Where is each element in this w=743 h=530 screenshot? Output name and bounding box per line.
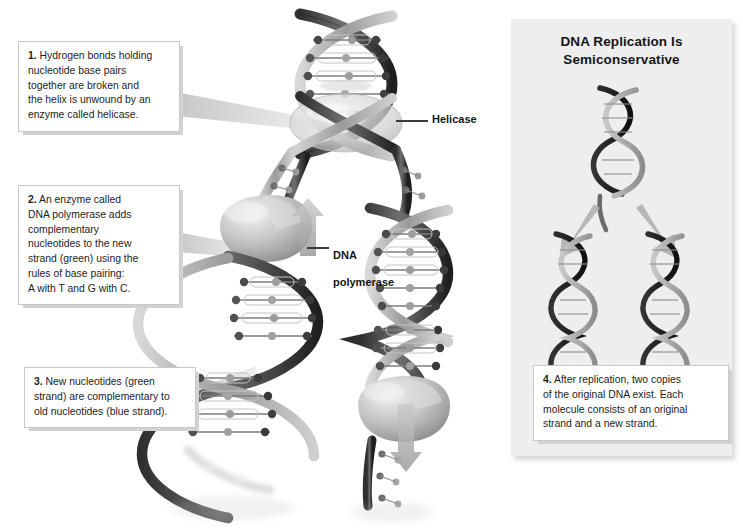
callout-4-line-3: molecule consists of an original: [543, 403, 719, 418]
right-new-strand-tail: [367, 440, 401, 507]
callout-1-line-1: Hydrogen bonds holding: [40, 50, 153, 61]
base-pair-nodes: [304, 36, 390, 116]
callout-1-line-5: enzyme called helicase.: [28, 108, 170, 123]
dna-replication-figure: DNA Replication Is Semiconservative: [0, 0, 743, 530]
callout-1-line-2: nucleotide base pairs: [28, 64, 170, 79]
callout-1-line-3: together are broken and: [28, 79, 170, 94]
callout-step-2: 2. An enzyme called DNA polymerase adds …: [18, 185, 180, 305]
callout-4-line-1: After replication, two copies: [554, 374, 681, 385]
callout-1-line-4: the helix is unwound by an: [28, 93, 170, 108]
callout-2-line-3: complementary: [28, 223, 170, 238]
callout-step-3: 3. New nucleotides (green strand) are co…: [24, 367, 196, 428]
helicase-label: Helicase: [432, 113, 477, 127]
panel-title-line-2: Semiconservative: [563, 52, 679, 67]
dna-polymerase-label-line-2: polymerase: [333, 276, 394, 288]
callout-1-number: 1.: [28, 50, 37, 61]
right-daughter-strand: [358, 150, 450, 507]
callout-4-number: 4.: [543, 374, 552, 385]
callout-pointer-wedges: [176, 92, 320, 400]
polymerase-leader-line: [307, 247, 329, 249]
callout-step-1: 1. Hydrogen bonds holding nucleotide bas…: [18, 41, 180, 132]
callout-4-line-2: of the original DNA exist. Each: [543, 388, 719, 403]
panel-title-line-1: DNA Replication Is: [560, 34, 682, 49]
callout-3-line-2: strand) are complementary to: [34, 390, 186, 405]
callout-3-line-3: old nucleotides (blue strand).: [34, 405, 186, 420]
unwinding-strands: [292, 96, 396, 152]
helicase-enzyme: [290, 94, 402, 152]
panel-title: DNA Replication Is Semiconservative: [511, 33, 732, 69]
dna-polymerase-label: DNA polymerase: [333, 235, 394, 290]
callout-step-4: 4. After replication, two copies of the …: [533, 365, 729, 441]
callout-2-number: 2.: [28, 194, 37, 205]
callout-2-line-4: nucleotides to the new: [28, 237, 170, 252]
callout-2-line-1: An enzyme called: [39, 194, 121, 205]
dna-polymerase-label-line-1: DNA: [333, 249, 357, 261]
synthesis-arrow-right: [390, 404, 422, 472]
callout-2-line-2: DNA polymerase adds: [28, 208, 170, 223]
bottom-reflections: [170, 496, 432, 522]
callout-4-line-4: strand and a new strand.: [543, 417, 719, 432]
parent-double-helix: [300, 14, 392, 156]
callout-2-line-7: A with T and G with C.: [28, 282, 170, 297]
top-caption-fragment: [0, 0, 743, 5]
callout-2-line-6: rules of base pairing:: [28, 267, 170, 282]
helicase-leader-line: [396, 120, 428, 122]
callout-2-line-5: strand (green) using the: [28, 252, 170, 267]
dna-polymerase-right: [358, 376, 450, 442]
dna-polymerase-left: [220, 195, 312, 262]
callout-3-line-1: New nucleotides (green: [46, 376, 155, 387]
callout-3-number: 3.: [34, 376, 43, 387]
